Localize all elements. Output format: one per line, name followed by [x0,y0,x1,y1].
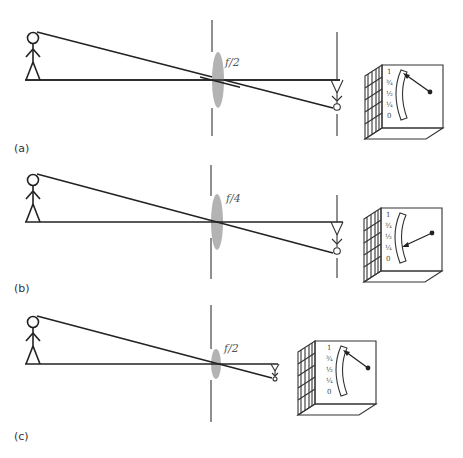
svg-text:1: 1 [387,68,391,76]
panel-a: f/2 1 ¾ ½ ¼ 0 [14,20,443,155]
svg-text:¼: ¼ [385,244,392,252]
light-meter-icon: 1 ¾ ½ ¼ 0 [364,208,442,282]
panel-label: (c) [14,430,29,443]
optics-diagram: f/2 1 ¾ ½ ¼ 0 [0,0,463,458]
panel-label: (b) [14,282,30,295]
f-stop-label: f/2 [224,56,240,69]
meter-needle [406,233,432,245]
object-figure-icon [26,317,40,365]
panel-c: f/2 1 ¾ ½ ¼ 0 [14,305,376,443]
svg-text:¼: ¼ [326,377,333,385]
f-stop-label: f/4 [225,192,241,205]
svg-text:½: ½ [326,366,333,374]
svg-text:0: 0 [387,112,391,120]
svg-text:¾: ¾ [386,79,393,87]
f-stop-label: f/2 [223,342,239,355]
object-figure-icon [26,175,40,223]
inverted-image-icon [271,364,279,381]
svg-text:¾: ¾ [385,222,392,230]
panel-label: (a) [14,142,29,155]
svg-text:1: 1 [327,344,331,352]
inverted-image-icon [331,222,343,254]
svg-text:½: ½ [385,233,392,241]
meter-needle [406,75,430,92]
svg-text:½: ½ [386,90,393,98]
light-meter-icon: 1 ¾ ½ ¼ 0 [298,341,376,415]
meter-needle [346,352,368,368]
chief-ray [37,32,333,108]
svg-text:0: 0 [327,388,331,396]
object-figure-icon [26,33,40,81]
svg-text:¾: ¾ [326,355,333,363]
chief-ray [37,174,333,253]
light-meter-icon: 1 ¾ ½ ¼ 0 [365,65,443,139]
svg-text:1: 1 [386,211,390,219]
svg-text:¼: ¼ [386,101,393,109]
panel-b: f/4 1 ¾ ½ ¼ 0 [14,165,442,295]
inverted-image-icon [331,80,343,110]
svg-text:0: 0 [386,255,390,263]
